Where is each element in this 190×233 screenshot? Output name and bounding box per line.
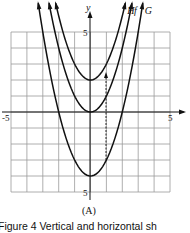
curve-G-arrow-icon — [37, 1, 42, 9]
figure: y -5 5 5 5 HfG (A) Figure 4 Vertical and… — [0, 0, 190, 233]
shift-arrow-head-icon — [104, 72, 108, 78]
y-axis-label: y — [85, 2, 91, 13]
x-tick-5: 5 — [168, 113, 173, 123]
curve-label-f: f — [134, 5, 138, 16]
figure-caption: Figure 4 Vertical and horizontal sh — [0, 220, 157, 232]
curve-f-arrow-icon — [48, 1, 53, 9]
curve-labels: HfG — [126, 5, 152, 16]
x-axis-arrow-icon — [179, 110, 186, 115]
y-tick-5: 5 — [83, 28, 88, 38]
x-tick-neg5: -5 — [2, 113, 10, 123]
curve-G-arrow-icon — [140, 1, 145, 9]
curve-label-G: G — [145, 5, 152, 16]
curve-H-arrow-icon — [122, 1, 127, 9]
y-tick-neg5: 5 — [83, 188, 88, 198]
curve-H-arrow-icon — [55, 1, 60, 9]
panel-label: (A) — [82, 205, 96, 217]
